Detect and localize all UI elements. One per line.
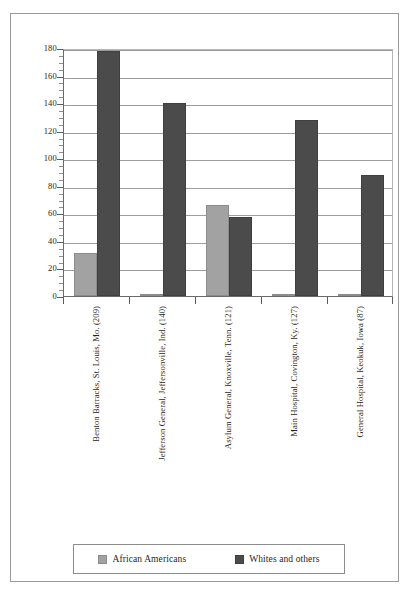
bar-whites-and-others xyxy=(97,51,120,296)
bar-whites-and-others xyxy=(229,217,252,296)
x-axis-tick-group xyxy=(63,297,393,304)
bar-whites-and-others xyxy=(361,175,384,296)
x-axis-tick xyxy=(392,297,393,304)
x-axis-tick-label: Main Hospital, Covington, Ky. (127) xyxy=(289,306,299,437)
x-axis-label-slot: General Hospital, Keokuk, Iowa (87) xyxy=(327,306,393,531)
legend-label: Whites and others xyxy=(249,554,319,564)
bar-african-americans xyxy=(206,205,229,296)
x-axis-label-slot: Jefferson General, Jeffersonville, Ind. … xyxy=(129,306,195,531)
x-axis-tick xyxy=(327,297,328,304)
x-axis-tick-label: Asylum General, Knoxville, Tenn. (121) xyxy=(223,306,233,449)
legend-entry: African Americans xyxy=(98,554,186,564)
x-axis-tick xyxy=(261,297,262,304)
y-axis-tick-group xyxy=(11,49,63,297)
chart-legend: African AmericansWhites and others xyxy=(73,544,345,574)
x-axis-tick xyxy=(63,297,64,304)
x-axis-tick xyxy=(195,297,196,304)
bar-african-americans xyxy=(74,253,97,296)
x-axis-label-slot: Benton Barracks, St. Louis, Mo. (209) xyxy=(63,306,129,531)
figure-frame: 020406080100120140160180 Benton Barracks… xyxy=(10,13,399,582)
bar-african-americans xyxy=(140,294,163,296)
x-axis-label-slot: Asylum General, Knoxville, Tenn. (121) xyxy=(195,306,261,531)
bar-african-americans xyxy=(338,294,361,296)
bar-african-americans xyxy=(272,294,295,296)
x-axis-tick-label: Jefferson General, Jeffersonville, Ind. … xyxy=(157,306,167,461)
light-gray-swatch xyxy=(98,555,107,564)
plot-area xyxy=(63,49,393,297)
legend-entry: Whites and others xyxy=(235,554,319,564)
dark-gray-swatch xyxy=(235,555,244,564)
x-axis-tick xyxy=(129,297,130,304)
x-axis-tick-label: Benton Barracks, St. Louis, Mo. (209) xyxy=(91,306,101,442)
x-axis-tick-label: General Hospital, Keokuk, Iowa (87) xyxy=(355,306,365,437)
bar-whites-and-others xyxy=(295,120,318,296)
legend-label: African Americans xyxy=(112,554,186,564)
bar-whites-and-others xyxy=(163,103,186,296)
x-axis-label-group: Benton Barracks, St. Louis, Mo. (209)Jef… xyxy=(63,306,393,531)
x-axis-label-slot: Main Hospital, Covington, Ky. (127) xyxy=(261,306,327,531)
